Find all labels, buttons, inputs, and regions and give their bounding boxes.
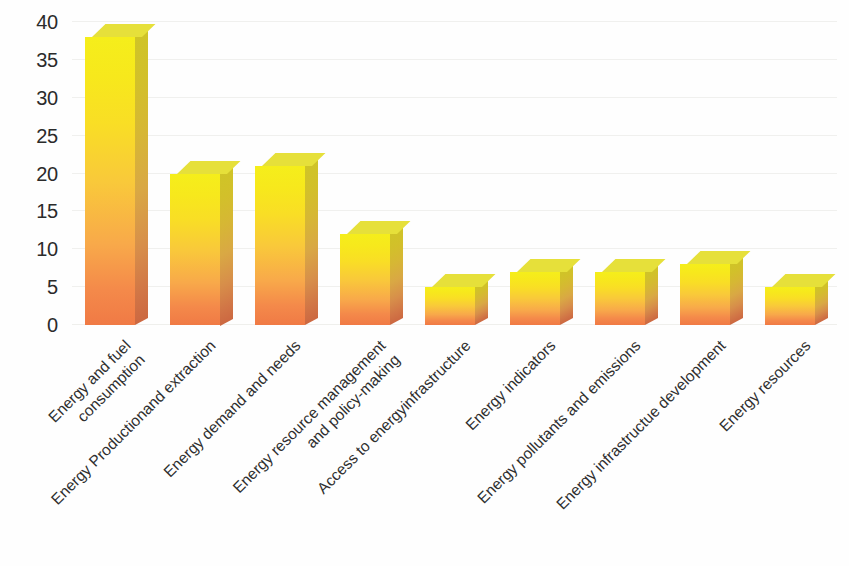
bar[interactable] — [595, 272, 645, 325]
y-axis-tick-15: 15 — [0, 201, 58, 221]
bar-front-face — [170, 174, 220, 326]
bar[interactable] — [425, 287, 475, 325]
bar-side-face — [730, 257, 743, 325]
bar[interactable] — [340, 234, 390, 325]
y-axis-tick-10: 10 — [0, 239, 58, 259]
gridline-40 — [72, 21, 837, 22]
bar-chart: 0510152025303540 Energy and fuel consump… — [0, 0, 849, 566]
y-axis-tick-25: 25 — [0, 126, 58, 146]
bar-front-face — [680, 264, 730, 325]
y-axis-tick-30: 30 — [0, 88, 58, 108]
y-axis-tick-40: 40 — [0, 12, 58, 32]
bar-front-face — [765, 287, 815, 325]
bar[interactable] — [170, 174, 220, 326]
bar-front-face — [425, 287, 475, 325]
bar-side-face — [390, 227, 403, 325]
bar-side-face — [645, 265, 658, 325]
y-axis-tick-35: 35 — [0, 50, 58, 70]
plot-area — [72, 22, 837, 325]
bar-side-face — [305, 159, 318, 325]
x-axis-label: Energy resources — [518, 336, 815, 566]
bar[interactable] — [510, 272, 560, 325]
bar[interactable] — [85, 37, 135, 325]
bar-side-face — [220, 167, 233, 325]
y-axis-tick-5: 5 — [0, 277, 58, 297]
bar-side-face — [135, 30, 148, 325]
bar-front-face — [595, 272, 645, 325]
gridline-35 — [72, 59, 837, 60]
bar[interactable] — [255, 166, 305, 325]
bar-front-face — [255, 166, 305, 325]
bar[interactable] — [765, 287, 815, 325]
bar-front-face — [340, 234, 390, 325]
gridline-30 — [72, 97, 837, 98]
bar-front-face — [85, 37, 135, 325]
y-axis-tick-20: 20 — [0, 164, 58, 184]
bar-front-face — [510, 272, 560, 325]
bar-side-face — [560, 265, 573, 325]
y-axis: 0510152025303540 — [0, 0, 66, 345]
gridline-25 — [72, 135, 837, 136]
bar[interactable] — [680, 264, 730, 325]
x-axis-labels: Energy and fuel consumptionEnergy Produc… — [0, 328, 849, 566]
